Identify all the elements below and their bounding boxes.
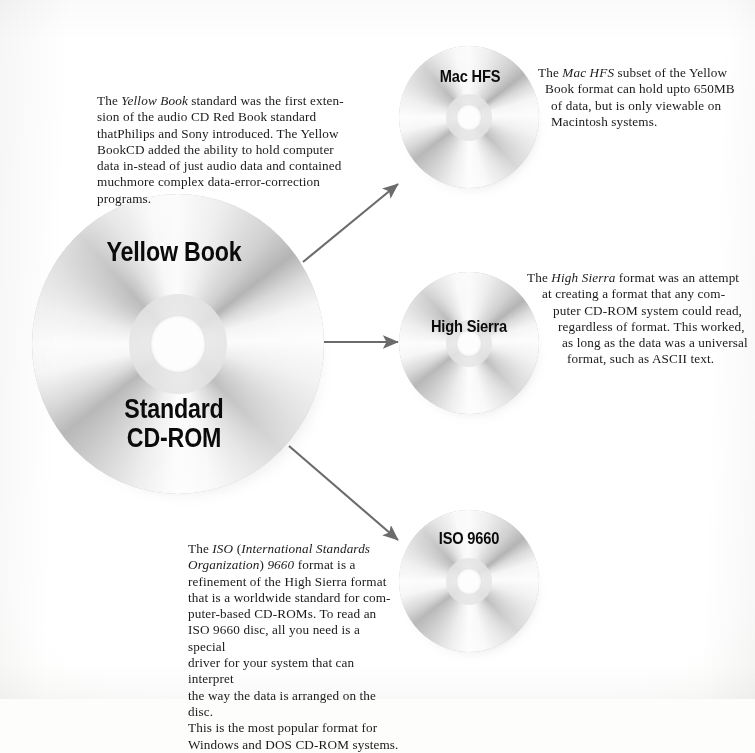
text-line: The ISO (International Standards [188, 541, 400, 557]
disc-iso-9660: ISO 9660 [396, 508, 544, 660]
disc-label-iso-9660: ISO 9660 [418, 530, 519, 548]
text-line: of data, but is only viewable on [538, 98, 750, 114]
description-mac-hfs: The Mac HFS subset of the YellowBook for… [538, 65, 750, 130]
disc-high-sierra: High Sierra [396, 270, 544, 422]
text-line: Organization) 9660 format is a [188, 557, 400, 573]
text-line: puter CD-ROM system could read, [527, 303, 751, 319]
disc-label-yellow-book: Yellow Book [74, 238, 274, 267]
disc-yellow-book: Yellow Book Standard CD-ROM [28, 190, 328, 502]
text-line: Windows and DOS CD-ROM systems. [188, 737, 400, 753]
text-line: as long as the data was a universal [527, 335, 751, 351]
description-yellow-book: The Yellow Book standard was the first e… [97, 93, 349, 207]
disc-label-standard-cdrom: Standard CD-ROM [74, 395, 274, 453]
disc-center-hole [456, 568, 482, 595]
disc-label-high-sierra: High Sierra [414, 318, 524, 336]
text-line: driver for your system that can interpre… [188, 655, 400, 688]
description-high-sierra: The High Sierra format was an attemptat … [527, 270, 751, 368]
text-line: at creating a format that any com- [527, 286, 751, 302]
disc-center-hole [456, 104, 482, 131]
text-line: more complex data-error-correction progr… [97, 174, 320, 205]
text-line: puter-based CD-ROMs. To read an [188, 606, 400, 622]
text-line: The Yellow Book standard was the first e… [97, 93, 344, 108]
cd-disc-graphic [399, 272, 539, 414]
text-line: format, such as ASCII text. [527, 351, 751, 367]
text-line: Macintosh systems. [538, 114, 750, 130]
text-line: refinement of the High Sierra format [188, 574, 400, 590]
text-line: This is the most popular format for [188, 720, 400, 736]
text-line: ISO 9660 disc, all you need is a special [188, 622, 400, 655]
text-line: regardless of format. This worked, [527, 319, 751, 335]
disc-mac-hfs: Mac HFS [396, 44, 544, 196]
text-line: the way the data is arranged on the disc… [188, 688, 400, 721]
disc-label-mac-hfs: Mac HFS [420, 68, 520, 86]
text-line: Book format can hold upto 650MB [538, 81, 750, 97]
disc-center-hole [150, 315, 206, 373]
text-line: The High Sierra format was an attempt [527, 270, 751, 286]
description-iso-9660: The ISO (International StandardsOrganiza… [188, 541, 400, 753]
text-line: that is a worldwide standard for com- [188, 590, 400, 606]
text-line: The Mac HFS subset of the Yellow [538, 65, 750, 81]
